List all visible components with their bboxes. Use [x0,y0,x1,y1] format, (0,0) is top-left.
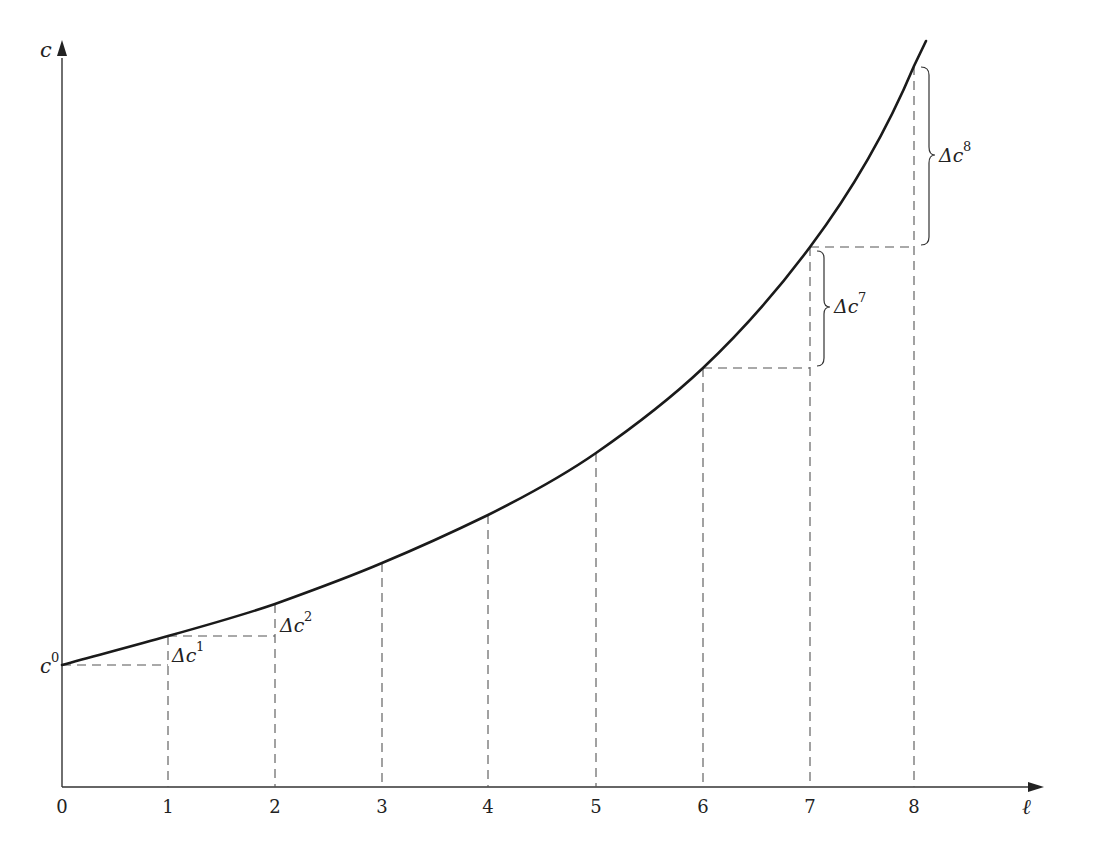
x-tick-4: 4 [482,796,493,817]
svg-text:Δc: Δc [833,295,859,317]
delta-c1-label: Δc 1 [171,639,204,666]
x-tick-8: 8 [908,796,919,817]
svg-text:Δc: Δc [938,144,964,166]
y-axis-arrow-icon [57,40,67,56]
x-tick-2: 2 [269,796,280,817]
x-axis-label: ℓ [1022,795,1031,819]
y-axis-label: c [40,38,52,62]
x-tick-7: 7 [804,796,815,817]
c0-label: c 0 [40,650,59,678]
svg-text:0: 0 [51,650,59,665]
x-tick-6: 6 [697,796,708,817]
delta-c2-label: Δc 2 [279,609,312,636]
brace-delta-c7 [817,251,830,366]
svg-text:c: c [40,654,51,678]
vertical-dashed-lines [168,66,914,787]
svg-text:Δc: Δc [279,614,305,636]
svg-text:1: 1 [196,639,204,654]
horizontal-dashed-lines [62,247,914,665]
svg-text:7: 7 [858,290,866,305]
svg-text:Δc: Δc [171,644,197,666]
delta-c8-label: Δc 8 [938,139,971,166]
svg-text:2: 2 [304,609,312,624]
growth-curve [62,41,926,665]
x-tick-5: 5 [590,796,601,817]
x-axis-arrow-icon [1028,782,1044,792]
x-tick-1: 1 [162,796,173,817]
svg-text:8: 8 [963,139,971,154]
x-tick-3: 3 [376,796,387,817]
brace-delta-c8 [921,67,935,245]
x-tick-0: 0 [56,796,67,817]
exponential-growth-diagram: c ℓ 0 1 2 3 4 5 6 7 8 c 0 Δc 1 Δc 2 Δc 7… [0,0,1094,857]
delta-c7-label: Δc 7 [833,290,866,317]
x-tick-labels: 0 1 2 3 4 5 6 7 8 [56,796,919,817]
